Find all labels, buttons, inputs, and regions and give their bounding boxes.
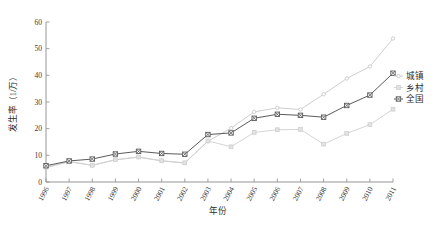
y-tick-label: 60 — [34, 18, 42, 27]
data-point — [275, 128, 279, 132]
x-tick-label: 2008 — [314, 185, 329, 203]
data-point — [299, 128, 303, 132]
x-tick-label: 2010 — [360, 185, 375, 203]
data-point — [114, 158, 118, 162]
series-乡村 — [44, 107, 395, 169]
data-point — [391, 37, 394, 40]
x-tick-label: 2005 — [244, 185, 259, 203]
legend-item-城镇[interactable]: 城镇 — [394, 70, 424, 81]
data-point — [276, 106, 279, 109]
data-point — [90, 163, 94, 167]
legend-label: 全国 — [406, 93, 424, 104]
data-point — [206, 139, 210, 143]
x-tick-label: 2004 — [221, 185, 236, 203]
data-point — [345, 77, 348, 80]
series-城镇 — [44, 37, 394, 170]
chart-canvas: 0102030405060 19961997199819992000200120… — [0, 0, 447, 226]
x-tick-label: 1996 — [36, 185, 51, 203]
data-point — [397, 74, 400, 77]
data-point — [368, 65, 371, 68]
y-axis-ticks: 0102030405060 — [34, 18, 49, 187]
data-point — [229, 145, 233, 149]
x-tick-label: 1998 — [82, 185, 97, 203]
x-tick-label: 1999 — [105, 185, 120, 203]
y-tick-label: 50 — [34, 44, 42, 53]
data-point — [160, 159, 164, 163]
x-tick-label: 2002 — [175, 185, 190, 203]
data-point — [345, 132, 349, 136]
y-tick-label: 10 — [34, 151, 42, 160]
x-tick-label: 2009 — [337, 185, 352, 203]
data-point — [299, 108, 302, 111]
series-line — [46, 39, 393, 168]
data-point — [137, 155, 141, 159]
x-tick-label: 2006 — [267, 185, 282, 203]
legend-label: 城镇 — [406, 70, 424, 81]
x-tick-label: 2011 — [383, 185, 398, 202]
data-point — [253, 110, 256, 113]
y-tick-label: 40 — [34, 71, 42, 80]
data-point — [183, 161, 187, 165]
y-tick-label: 30 — [34, 98, 42, 107]
legend-item-乡村[interactable]: 乡村 — [394, 82, 424, 93]
data-point — [368, 123, 372, 127]
series-全国 — [44, 71, 395, 168]
data-point — [229, 126, 232, 129]
line-chart: 0102030405060 19961997199819992000200120… — [0, 0, 447, 226]
data-point — [397, 86, 401, 90]
series-line — [46, 73, 393, 166]
y-tick-label: 20 — [34, 124, 42, 133]
x-axis-title: 年份 — [209, 205, 227, 216]
y-tick-label: 0 — [38, 178, 42, 187]
chart-legend: 城镇乡村全国 — [394, 70, 424, 104]
legend-label: 乡村 — [406, 82, 424, 93]
data-point — [322, 93, 325, 96]
data-point — [391, 107, 395, 111]
x-tick-label: 1997 — [59, 185, 74, 203]
series-group — [44, 37, 395, 170]
x-tick-label: 2000 — [129, 185, 144, 203]
y-axis-title: 发生率（1/万） — [7, 72, 18, 133]
series-line — [46, 109, 393, 167]
legend-item-全国[interactable]: 全国 — [394, 93, 424, 104]
data-point — [322, 142, 326, 146]
x-tick-label: 2003 — [198, 185, 213, 203]
x-tick-label: 2007 — [291, 185, 306, 203]
x-tick-label: 2001 — [152, 185, 167, 203]
data-point — [252, 131, 256, 135]
